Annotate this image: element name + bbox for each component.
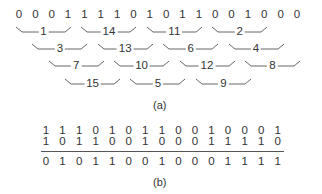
sequence-bit: 0: [14, 8, 24, 20]
sequence-bit: 1: [96, 8, 106, 20]
sequence-bit: 0: [128, 8, 138, 20]
window-bracket: 7: [49, 61, 104, 69]
sequence-bit: 0: [210, 8, 220, 20]
window-value-label: 12: [199, 59, 216, 71]
window-bracket: 9: [196, 79, 251, 87]
result-bit: 1: [273, 155, 283, 167]
operand-2-bit: 0: [190, 135, 200, 147]
window-bracket: 4: [229, 44, 284, 52]
caption-a: (a): [153, 99, 166, 111]
window-bracket: 13: [98, 44, 153, 52]
operand-2-bit: 1: [140, 135, 150, 147]
sequence-bit: 0: [227, 8, 237, 20]
window-value-label: 8: [267, 59, 277, 71]
result-bit: 0: [190, 155, 200, 167]
result-bit: 0: [74, 155, 84, 167]
operand-2-bit: 0: [107, 135, 117, 147]
window-value-label: 11: [166, 25, 182, 37]
window-bracket: 8: [245, 61, 300, 69]
caption-b: (b): [153, 176, 166, 188]
result-bit: 1: [256, 155, 266, 167]
window-value-label: 4: [251, 42, 261, 54]
sequence-bit: 0: [30, 8, 40, 20]
operand-2-bit: 1: [223, 135, 233, 147]
window-bracket: 10: [114, 61, 169, 69]
sequence-bit: 0: [161, 8, 171, 20]
diagram: 000111101011001000114112313647101281559 …: [0, 0, 322, 194]
window-value-label: 5: [153, 77, 163, 89]
sequence-bit: 1: [79, 8, 89, 20]
result-bit: 1: [58, 155, 68, 167]
sequence-bit: 0: [292, 8, 302, 20]
operand-2-bit: 1: [240, 135, 250, 147]
sequence-bit: 1: [194, 8, 204, 20]
result-bit: 0: [140, 155, 150, 167]
sum-rule-line: [41, 151, 284, 152]
window-value-label: 7: [71, 59, 81, 71]
operand-2-bit: 1: [207, 135, 217, 147]
window-bracket: 3: [32, 44, 87, 52]
operand-2-bit: 0: [58, 135, 68, 147]
operand-2-bit: 0: [124, 135, 134, 147]
operand-2-bit: 0: [173, 135, 183, 147]
window-bracket: 2: [212, 27, 267, 35]
window-value-label: 6: [185, 42, 195, 54]
window-bracket: 5: [130, 79, 185, 87]
window-value-label: 1: [38, 25, 48, 37]
result-bit: 0: [124, 155, 134, 167]
window-value-label: 3: [55, 42, 65, 54]
window-bracket: 14: [81, 27, 136, 35]
operand-2-bit: 0: [157, 135, 167, 147]
window-value-label: 14: [101, 25, 118, 37]
sequence-bit: 0: [259, 8, 269, 20]
sequence-bit: 1: [145, 8, 155, 20]
sequence-bit: 1: [112, 8, 122, 20]
window-bracket: 1: [16, 27, 71, 35]
result-bit: 0: [207, 155, 217, 167]
result-bit: 0: [173, 155, 183, 167]
result-bit: 1: [157, 155, 167, 167]
sequence-bit: 1: [178, 8, 188, 20]
result-bit: 1: [107, 155, 117, 167]
sequence-bit: 0: [47, 8, 57, 20]
operand-2-bit: 1: [41, 135, 51, 147]
result-bit: 1: [91, 155, 101, 167]
sequence-bit: 1: [63, 8, 73, 20]
result-bit: 1: [240, 155, 250, 167]
operand-2-bit: 1: [74, 135, 84, 147]
sequence-bit: 1: [243, 8, 253, 20]
operand-2-bit: 0: [273, 135, 283, 147]
operand-2-bit: 1: [256, 135, 266, 147]
window-value-label: 15: [84, 77, 101, 89]
window-bracket: 15: [65, 79, 120, 87]
result-bit: 0: [41, 155, 51, 167]
window-value-label: 2: [235, 25, 245, 37]
window-bracket: 11: [147, 27, 202, 35]
window-value-label: 13: [117, 42, 134, 54]
window-value-label: 9: [218, 77, 228, 89]
operand-2-bit: 1: [91, 135, 101, 147]
window-bracket: 6: [163, 44, 218, 52]
result-bit: 1: [223, 155, 233, 167]
window-bracket: 12: [180, 61, 235, 69]
window-value-label: 10: [133, 59, 150, 71]
sequence-bit: 0: [276, 8, 286, 20]
